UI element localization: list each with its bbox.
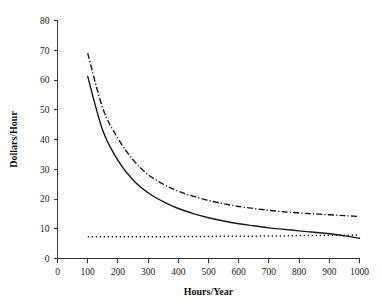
x-tick-label: 600 [232, 267, 247, 277]
x-axis-title: Hours/Year [184, 286, 234, 297]
y-tick-label: 50 [40, 105, 50, 115]
y-tick-label: 10 [40, 224, 50, 234]
x-tick-label: 900 [322, 267, 337, 277]
y-axis-ticks [54, 21, 58, 259]
series-layer [88, 53, 360, 238]
y-tick-label: 0 [45, 254, 50, 264]
y-tick-label: 40 [40, 135, 50, 145]
x-tick-label: 0 [55, 267, 60, 277]
y-tick-label: 60 [40, 75, 50, 85]
x-axis-tick-labels: 01002003004005006007008009001000 [55, 267, 369, 277]
x-tick-label: 200 [111, 267, 126, 277]
chart-figure: 01020304050607080 0100200300400500600700… [0, 0, 382, 307]
y-axis-title: Dollars/Hour [8, 111, 19, 168]
x-tick-label: 700 [262, 267, 277, 277]
x-tick-label: 300 [141, 267, 156, 277]
y-tick-label: 80 [40, 16, 50, 26]
x-tick-label: 400 [171, 267, 186, 277]
x-tick-label: 800 [292, 267, 307, 277]
y-axis-tick-labels: 01020304050607080 [40, 16, 50, 264]
chart-plot-area: 01020304050607080 0100200300400500600700… [0, 0, 382, 307]
y-tick-label: 70 [40, 46, 50, 56]
series-upper-cost-curve [88, 53, 360, 216]
x-tick-label: 1000 [350, 267, 369, 277]
axes-layer: 01020304050607080 0100200300400500600700… [40, 16, 369, 277]
x-axis-ticks [58, 259, 360, 263]
y-tick-label: 30 [40, 165, 50, 175]
y-tick-label: 20 [40, 194, 50, 204]
x-tick-label: 500 [201, 267, 216, 277]
series-constant-reference-line [88, 235, 360, 237]
x-tick-label: 100 [81, 267, 96, 277]
